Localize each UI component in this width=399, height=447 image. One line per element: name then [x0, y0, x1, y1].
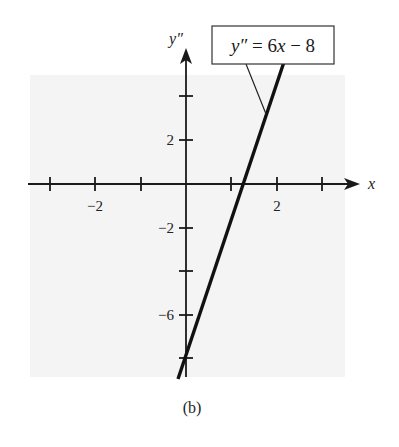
equation-eq: = 6 [247, 35, 277, 56]
equation-lhs: y″ [229, 35, 248, 56]
plot-area-background [30, 75, 345, 377]
y-tick-label: −6 [158, 307, 174, 323]
equation-label: y″ = 6x − 8 [229, 35, 315, 56]
equation-rest: − 8 [285, 35, 315, 56]
x-tick-label: −2 [87, 198, 103, 214]
x-axis-label: x [367, 175, 375, 192]
figure-caption: (b) [183, 399, 202, 417]
y-axis-label: y″ [167, 30, 183, 48]
y-tick-label: −2 [158, 220, 174, 236]
chart-figure: −2 2 2 −2 −6 x y″ y″ = 6x − 8 (b) [0, 0, 399, 447]
x-tick-label: 2 [273, 198, 281, 214]
y-tick-label: 2 [167, 132, 175, 148]
